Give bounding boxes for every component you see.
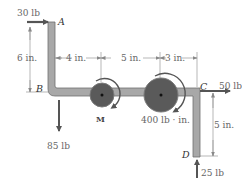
point-d-label: D: [181, 149, 190, 160]
couple-m-label: M: [96, 114, 105, 124]
force-85lb-label: 85 lb: [47, 141, 70, 151]
couple-400-label: 400 lb · in.: [141, 115, 190, 125]
force-50lb-label: 50 lb: [219, 81, 242, 91]
force-30lb-label: 30 lb: [17, 8, 40, 18]
dim-ab-label: 6 in.: [17, 53, 37, 63]
statics-diagram: A B C D 30 lb 85 lb 50 lb 25 lb M 400 lb…: [0, 0, 242, 183]
dim-b-p1-label: 4 in.: [66, 53, 86, 63]
dim-p2-c-label: 3 in.: [165, 53, 185, 63]
dim-p1-p2-label: 5 in.: [121, 53, 141, 63]
force-25lb-label: 25 lb: [201, 168, 224, 178]
dim-cd-label: 5 in.: [214, 120, 234, 130]
point-a-label: A: [57, 16, 65, 27]
point-b-label: B: [35, 83, 43, 94]
point-c-label: C: [200, 81, 208, 92]
